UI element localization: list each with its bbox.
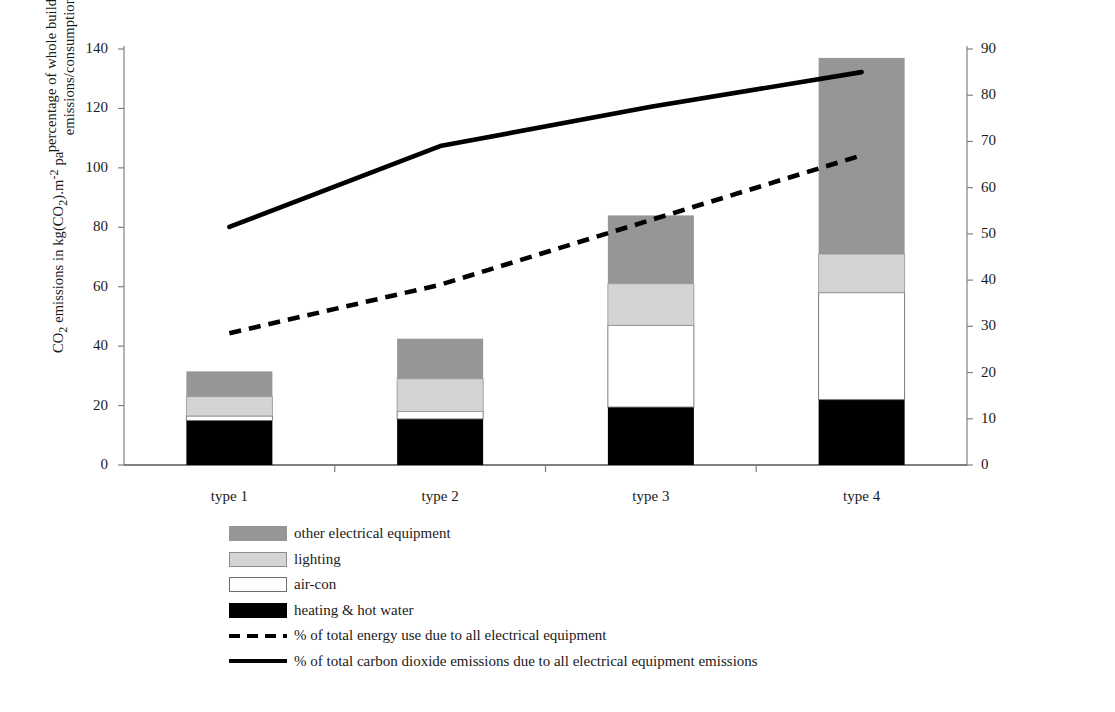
category-label-2: type 2	[370, 488, 510, 505]
legend-item-energy-use-line: % of total energy use due to all electri…	[229, 623, 1059, 649]
left-tick-label: 140	[62, 41, 108, 56]
legend-label-air-con: air-con	[294, 576, 336, 593]
left-tick-label: 40	[62, 338, 108, 353]
right-tick-label: 10	[981, 411, 1027, 426]
chart-legend: other electrical equipment lighting air-…	[229, 521, 1059, 674]
category-label-4: type 4	[792, 488, 932, 505]
left-tick-label: 120	[62, 100, 108, 115]
legend-swatch-dashed-line-icon	[229, 628, 287, 643]
chart-lines	[229, 72, 861, 333]
legend-label-other-electrical: other electrical equipment	[294, 525, 451, 542]
right-tick-label: 0	[981, 457, 1027, 472]
legend-swatch-other-electrical-icon	[229, 526, 287, 541]
legend-swatch-heating-icon	[229, 603, 287, 618]
legend-item-co2-emissions-line: % of total carbon dioxide emissions due …	[229, 649, 1059, 675]
left-tick-label: 80	[62, 219, 108, 234]
left-tick-label: 0	[62, 457, 108, 472]
right-tick-label: 40	[981, 272, 1027, 287]
right-tick-label: 70	[981, 133, 1027, 148]
category-label-1: type 1	[159, 488, 299, 505]
left-axis-title-sub2: 2	[56, 200, 70, 206]
legend-label-lighting: lighting	[294, 551, 341, 568]
legend-item-heating-hot-water: heating & hot water	[229, 598, 1059, 624]
legend-label-energy-use: % of total energy use due to all electri…	[294, 627, 607, 644]
left-tick-label: 100	[62, 160, 108, 175]
right-tick-label: 60	[981, 180, 1027, 195]
legend-swatch-lighting-icon	[229, 552, 287, 567]
left-axis-title-sub1: 2	[56, 327, 70, 333]
legend-label-heating: heating & hot water	[294, 602, 414, 619]
right-tick-label: 30	[981, 318, 1027, 333]
chart-root: CO2 emissions in kg(CO2).m-2 pa percenta…	[0, 0, 1115, 712]
left-tick-label: 60	[62, 279, 108, 294]
legend-swatch-solid-line-icon	[229, 654, 287, 669]
right-axis-title-line2: emissions/consumption	[60, 0, 78, 181]
right-tick-label: 50	[981, 226, 1027, 241]
left-axis-title-post: ).m	[50, 180, 66, 200]
legend-item-lighting: lighting	[229, 547, 1059, 573]
right-axis-title: percentage of whole building emissions/c…	[42, 0, 78, 181]
legend-item-other-electrical-equipment: other electrical equipment	[229, 521, 1059, 547]
legend-swatch-air-con-icon	[229, 577, 287, 592]
chart-bars	[186, 58, 904, 465]
legend-item-air-con: air-con	[229, 572, 1059, 598]
right-tick-label: 80	[981, 87, 1027, 102]
right-axis-title-line1: percentage of whole building	[42, 0, 60, 181]
right-tick-label: 90	[981, 41, 1027, 56]
legend-label-co2-emissions: % of total carbon dioxide emissions due …	[294, 653, 758, 670]
category-label-3: type 3	[581, 488, 721, 505]
left-tick-label: 20	[62, 398, 108, 413]
right-tick-label: 20	[981, 365, 1027, 380]
